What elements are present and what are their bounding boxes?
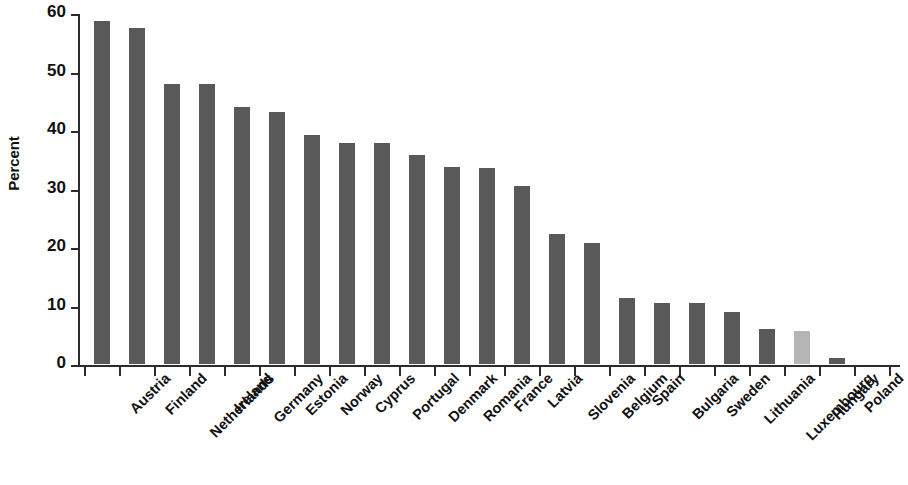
y-axis-tick-label: 60 [47,2,66,22]
bar [269,112,285,364]
y-axis-tick: 60 [71,14,78,16]
bar [794,331,810,364]
bar [234,107,250,364]
x-axis-labels: AustriaFinlandNetherlandsIrelandGermanyE… [78,370,908,485]
bar [339,143,355,364]
bar [94,21,110,364]
bar [164,84,180,364]
bar [129,28,145,364]
y-axis-tick: 10 [71,307,78,309]
bar [759,329,775,364]
bar-chart-figure: Percent 0102030405060 AustriaFinlandNeth… [0,0,908,485]
bar [654,303,670,364]
bar [444,167,460,364]
bar [724,312,740,364]
y-axis-tick-label: 10 [47,295,66,315]
bar [549,234,565,364]
bar [584,243,600,364]
y-axis-tick: 50 [71,73,78,75]
x-axis-label: Ireland [231,370,276,415]
bar [374,143,390,364]
bar [199,84,215,364]
bar [514,186,530,364]
x-axis-line [78,365,900,367]
y-axis-tick: 40 [71,131,78,133]
bar [689,303,705,364]
y-axis-tick-label: 0 [57,353,66,373]
plot-area: 0102030405060 [78,14,900,365]
y-axis-tick: 30 [71,190,78,192]
y-axis-tick-label: 50 [47,61,66,81]
bar [479,168,495,364]
y-axis-tick-label: 30 [47,178,66,198]
bar [304,135,320,364]
y-axis-tick-label: 20 [47,236,66,256]
y-axis-line [78,14,80,366]
bar [409,155,425,364]
bar [619,298,635,364]
y-axis-tick: 20 [71,248,78,250]
y-axis-tick-label: 40 [47,119,66,139]
y-axis-tick: 0 [71,365,78,367]
y-axis-title: Percent [5,124,22,204]
bar [829,358,845,364]
